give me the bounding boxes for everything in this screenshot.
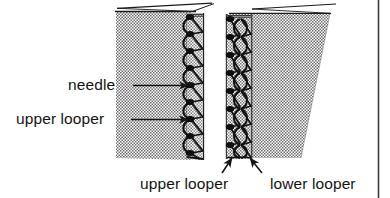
label-upper-looper-left: upper looper xyxy=(16,110,104,127)
left-panel-serged-edge xyxy=(183,13,204,160)
label-needle: needle xyxy=(68,76,115,93)
right-panel-serged-edge xyxy=(226,14,252,159)
label-upper-looper-bottom: upper looper xyxy=(140,175,228,192)
serger-stitch-figure: needle upper looper upper looper lower l… xyxy=(0,0,390,198)
label-lower-looper-bottom: lower looper xyxy=(270,175,356,192)
